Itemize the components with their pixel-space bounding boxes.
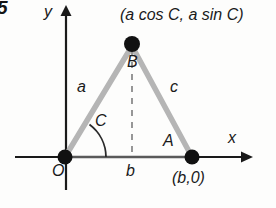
y-axis-arrowhead	[61, 5, 72, 16]
figure-canvas	[0, 0, 276, 208]
vertex-dot-right	[185, 150, 200, 165]
angle-label-a: A	[163, 133, 174, 149]
right-vertex-coordinate-label: (b,0)	[172, 170, 205, 186]
trigonometry-figure: 5 y x (a cos C, a sin C) O (b,0) a c b A…	[0, 0, 276, 208]
angle-arc-c	[90, 125, 107, 158]
x-axis-arrowhead	[241, 152, 253, 163]
side-label-c: c	[170, 79, 178, 95]
origin-label: O	[52, 163, 64, 179]
angle-label-c: C	[95, 113, 107, 129]
triangle-side-c	[132, 46, 192, 157]
apex-coordinate-label: (a cos C, a sin C)	[120, 7, 244, 23]
triangle-side-a	[65, 46, 132, 157]
side-label-a: a	[77, 79, 86, 95]
x-axis-label: x	[228, 130, 236, 146]
problem-number: 5	[0, 0, 7, 17]
angle-label-b: B	[127, 54, 138, 70]
vertex-dot-apex	[124, 36, 140, 52]
side-label-b: b	[126, 163, 135, 179]
y-axis-label: y	[44, 4, 52, 20]
